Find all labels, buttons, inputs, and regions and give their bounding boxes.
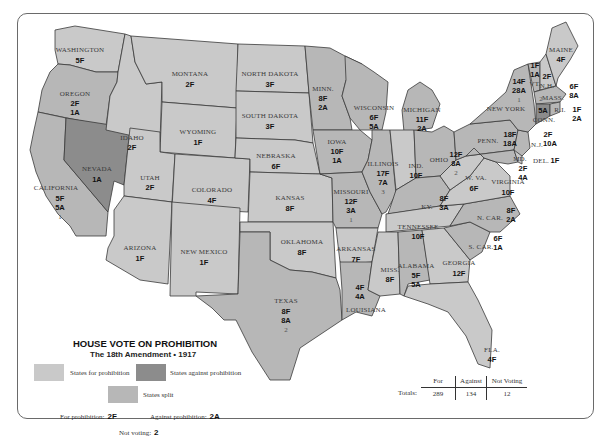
label-louisiana: LOUISIANA	[346, 306, 386, 314]
value-new-york-notvoting: 1	[517, 96, 521, 104]
value-washington-for: 5F	[76, 56, 85, 65]
totals-header-against: Against	[456, 376, 486, 387]
value-iowa-against: 1A	[332, 156, 342, 165]
legend-against-note: Against prohibition:2A	[150, 412, 220, 421]
value-utah-for: 2F	[146, 183, 155, 192]
label-georgia: GEORGIA	[443, 259, 476, 267]
value-oregon-for: 2F	[71, 99, 80, 108]
label-tennessee: TENNESSEE	[397, 223, 438, 231]
value-nevada-against: 1A	[92, 175, 102, 184]
label-new-jersey: N.J.	[531, 141, 543, 149]
label-new-hampshire: N.H.	[540, 82, 554, 90]
value-missouri-against: 3A	[346, 206, 356, 215]
value-arizona-for: 1F	[136, 254, 145, 263]
value-montana-for: 2F	[186, 80, 195, 89]
value-new-mexico-for: 1F	[200, 258, 209, 267]
value-missouri-notvoting: 1	[349, 216, 353, 224]
map-title: HOUSE VOTE ON PROHIBITION	[73, 338, 217, 349]
value-new-york-for: 14F	[513, 77, 526, 86]
label-pennsylvania: PENN.	[477, 137, 498, 145]
label-texas: TEXAS	[274, 297, 298, 305]
value-california-against: 5A	[55, 203, 65, 212]
totals-value-for: 289	[421, 387, 455, 400]
label-wisconsin: WISCONSIN	[354, 104, 395, 112]
value-wisconsin-against: 5A	[369, 122, 379, 131]
label-new-mexico: NEW MEXICO	[180, 248, 227, 256]
value-ohio-against: 8A	[451, 159, 461, 168]
label-illinois: ILLINOIS	[367, 160, 398, 168]
label-nebraska: NEBRASKA	[256, 152, 295, 160]
value-oregon-against: 1A	[70, 108, 80, 117]
value-new-hampshire-for: 2F	[543, 72, 552, 81]
label-ohio: OHIO	[430, 156, 448, 164]
legend-against-label: States against prohibition	[170, 369, 241, 377]
value-kentucky-against: 3A	[439, 203, 449, 212]
totals-value-notvoting: 12	[487, 387, 527, 400]
value-minnesota-against: 2A	[318, 103, 328, 112]
totals-col-against: Against 134	[456, 376, 486, 400]
label-idaho: IDAHO	[120, 134, 144, 142]
value-illinois-for: 17F	[377, 169, 390, 178]
value-minnesota-for: 8F	[319, 94, 328, 103]
value-idaho-for: 2F	[128, 143, 137, 152]
value-louisiana-for: 4F	[356, 283, 365, 292]
value-oklahoma-for: 8F	[298, 248, 307, 257]
value-south-carolina-for: 6F	[494, 234, 503, 243]
legend-split-label: States split	[143, 391, 174, 399]
value-connecticut-against: 5A	[538, 106, 548, 115]
value-iowa-for: 10F	[331, 147, 344, 156]
for-note-label: For prohibition:	[60, 413, 105, 421]
totals-value-against: 134	[456, 387, 486, 400]
label-alabama: ALABAMA	[398, 262, 435, 270]
label-oregon: OREGON	[60, 90, 90, 98]
label-california: CALIFORNIA	[34, 184, 78, 192]
value-alabama-against: 5A	[411, 280, 421, 289]
label-kansas: KANSAS	[275, 194, 304, 202]
label-washington: WASHINGTON	[56, 46, 105, 54]
label-north-dakota: NORTH DAKOTA	[242, 70, 299, 78]
label-delaware: DEL.	[533, 157, 549, 165]
value-virginia-for: 10F	[502, 188, 515, 197]
value-texas-for: 8F	[282, 307, 291, 316]
label-missouri: MISSOURI	[333, 188, 369, 196]
value-illinois-against: 7A	[378, 178, 388, 187]
label-arizona: ARIZONA	[124, 244, 157, 252]
label-north-carolina: N. CAR.	[477, 214, 503, 222]
value-georgia-for: 12F	[453, 269, 466, 278]
totals-header-for: For	[421, 376, 455, 387]
label-maryland: MD.	[513, 155, 527, 163]
value-colorado-for: 4F	[208, 196, 217, 205]
value-rhode-island-against: 2A	[572, 114, 582, 123]
label-arkansas: ARKANSAS	[336, 245, 375, 253]
notvoting-note-value: 2	[154, 428, 158, 437]
label-south-carolina: S. CAR.	[469, 243, 494, 251]
value-rhode-island-for: 1F	[573, 105, 582, 114]
value-kentucky-for: 8F	[440, 194, 449, 203]
legend-notvoting-note: Not voting:2	[119, 428, 159, 437]
value-south-dakota-for: 3F	[266, 122, 275, 131]
swatch-against	[136, 364, 166, 381]
value-new-jersey-for: 2F	[544, 130, 553, 139]
value-texas-notvoting: 2	[284, 326, 288, 334]
value-new-jersey-against: 10A	[543, 139, 557, 148]
totals-col-for: For 289	[421, 376, 455, 400]
value-tennessee-for: 10F	[412, 232, 425, 241]
value-illinois-notvoting: 3	[381, 188, 385, 196]
totals-col-notvoting: Not Voting 12	[487, 376, 527, 400]
value-arkansas-for: 7F	[352, 255, 361, 264]
map-subtitle: The 18th Amendment • 1917	[90, 350, 196, 359]
label-rhode-island: R.I.	[554, 106, 565, 114]
label-massachusetts: MASS.	[542, 94, 564, 102]
label-colorado: COLORADO	[192, 186, 233, 194]
value-north-carolina-for: 8F	[507, 206, 516, 215]
label-montana: MONTANA	[172, 70, 209, 78]
value-missouri-for: 12F	[345, 197, 358, 206]
label-utah: UTAH	[140, 174, 160, 182]
label-nevada: NEVADA	[82, 165, 112, 173]
label-kentucky: KY.	[421, 203, 433, 211]
value-vermont-against: 1A	[530, 70, 540, 79]
value-alabama-for: 5F	[412, 271, 421, 280]
value-maine-for: 4F	[557, 55, 566, 64]
value-pennsylvania-against: 18A	[503, 139, 517, 148]
label-wyoming: WYOMING	[180, 128, 217, 136]
